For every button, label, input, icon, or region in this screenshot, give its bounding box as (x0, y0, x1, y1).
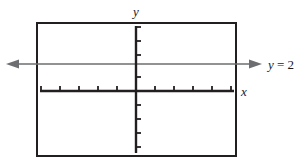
arrowhead-right-icon (249, 59, 262, 68)
coordinate-graph-figure: y x y = 2 (0, 0, 298, 166)
horizontal-line-y-equals-2 (6, 59, 262, 68)
arrowhead-left-icon (6, 59, 19, 68)
line-equation-label: y = 2 (266, 57, 294, 72)
equation-value: = 2 (274, 57, 294, 72)
graph-canvas: y x y = 2 (0, 0, 298, 166)
y-axis-label: y (131, 4, 139, 19)
x-axis-label: x (240, 84, 247, 99)
